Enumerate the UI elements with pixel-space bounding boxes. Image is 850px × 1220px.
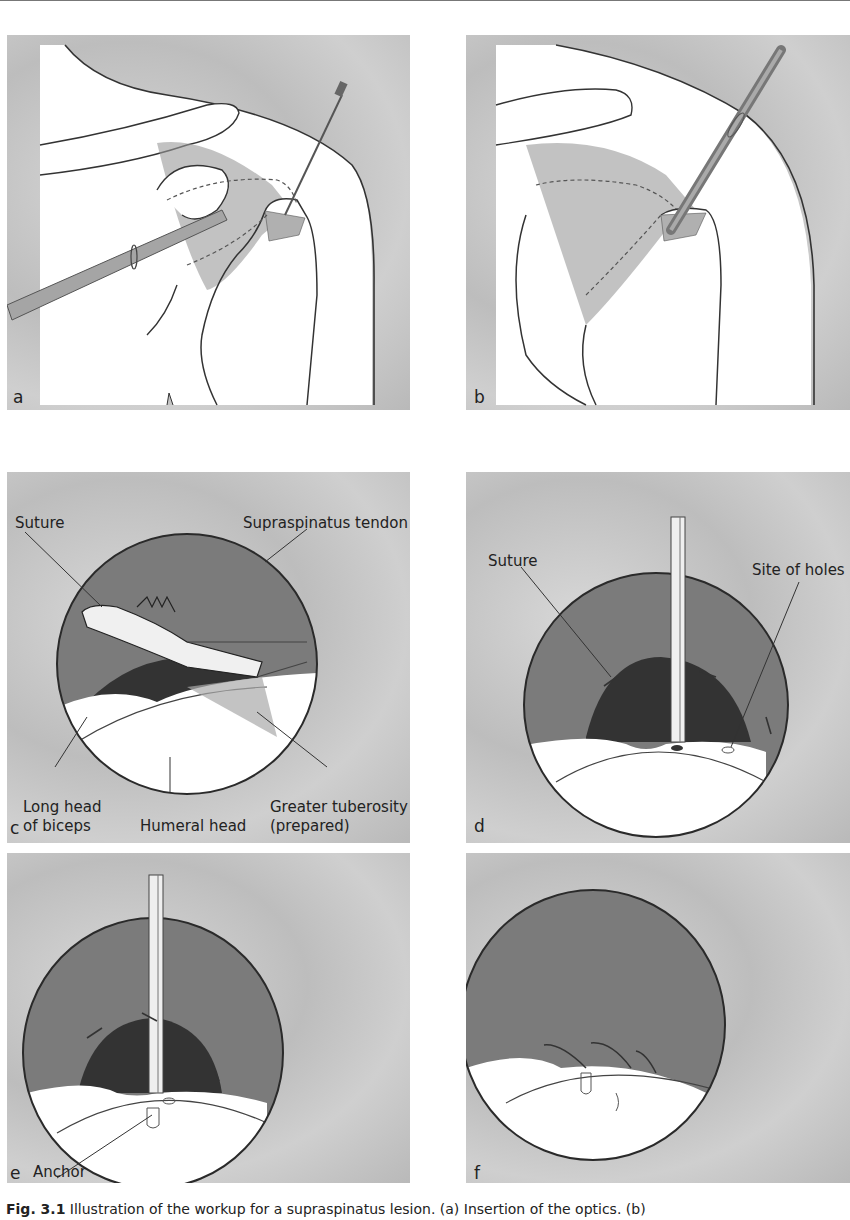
annotation-greater-tuberosity-line1: Greater tuberosity (270, 798, 408, 817)
annotation-long-head-line2: of biceps (23, 817, 91, 836)
arthroscopic-view-f (466, 853, 850, 1183)
annotation-long-head-line1: Long head (23, 798, 102, 817)
annotation-suture: Suture (488, 552, 537, 571)
panel-label: c (10, 818, 19, 838)
panel-b: b (466, 35, 850, 410)
annotation-greater-tuberosity-line2: (prepared) (270, 817, 350, 836)
panel-d: Suture Site of holes d (466, 472, 850, 843)
panel-label: f (474, 1163, 480, 1183)
panel-label: b (474, 387, 485, 407)
panel-label: a (13, 387, 23, 407)
annotation-humeral-head: Humeral head (140, 817, 246, 836)
figure-caption-text: Illustration of the workup for a suprasp… (65, 1201, 645, 1217)
arthroscopic-view-e (7, 853, 410, 1183)
annotation-suture: Suture (15, 514, 64, 533)
panel-label: d (474, 816, 485, 836)
annotation-supraspinatus-tendon: Supraspinatus tendon (243, 514, 408, 533)
arthroscopic-view-d (466, 472, 850, 843)
panel-f: f (466, 853, 850, 1183)
annotation-anchor: Anchor (33, 1163, 86, 1182)
panel-e: Anchor e (7, 853, 410, 1183)
panel-a: a (7, 35, 410, 410)
panel-c: Suture Supraspinatus tendon Long head of… (7, 472, 410, 843)
page-top-rule (0, 0, 850, 1)
panel-label: e (10, 1163, 20, 1183)
figure-caption: Fig. 3.1 Illustration of the workup for … (6, 1201, 850, 1220)
shoulder-illustration-b (466, 35, 850, 410)
figure-caption-label: Fig. 3.1 (6, 1201, 65, 1217)
annotation-site-of-holes: Site of holes (752, 561, 845, 580)
shoulder-illustration-a (7, 35, 410, 410)
